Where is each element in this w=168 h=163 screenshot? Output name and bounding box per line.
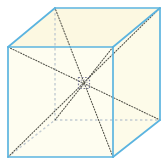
cube-diagram-figure (0, 0, 168, 163)
cube-svg-canvas (0, 0, 168, 163)
front-face (8, 47, 113, 157)
